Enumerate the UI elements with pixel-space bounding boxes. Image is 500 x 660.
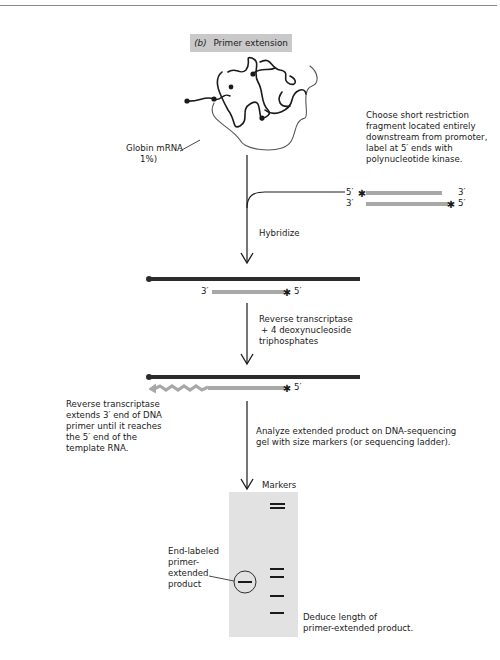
probe-instruction-4: label at 5′ ends with [366, 143, 453, 154]
hybrid-rna-primer: ✱ [146, 276, 360, 298]
step-hybridize-label: Hybridize [259, 228, 300, 239]
extended-primer-hybrid: ✱ [146, 374, 360, 394]
step2-label-2: + 4 deoxynucleoside [261, 325, 351, 336]
hybrid-primer-3prime: 3′ [201, 286, 208, 297]
mrna-label-percent: 1%) [140, 154, 157, 165]
product-label-1: End-labeled [168, 546, 219, 557]
probe-join-line [247, 192, 345, 208]
labeled-probe-duplex: ✱ ✱ [358, 188, 455, 210]
svg-text:✱: ✱ [283, 383, 291, 394]
mrna-tangle-illustration [187, 58, 317, 150]
probe-bottom-left-end: 3′ [346, 198, 353, 209]
step3-label-2: gel with size markers (or sequencing lad… [256, 437, 451, 448]
conclusion-1: Deduce length of [303, 612, 377, 623]
extension-note-1: Reverse transcriptase [66, 399, 160, 410]
conclusion-2: primer-extended product. [303, 623, 413, 634]
extension-note-5: template RNA. [66, 443, 128, 454]
product-label-2: primer- [168, 557, 199, 568]
extension-note-3: primer until it reaches [66, 421, 161, 432]
diagram-graphics: ✱ ✱ ✱ ✱ [0, 0, 500, 660]
marker-bands [270, 504, 285, 613]
product-label-4: product [168, 579, 201, 590]
probe-instruction-3: downstream from promoter, [366, 132, 487, 143]
probe-bottom-right-end: 5′ [458, 198, 465, 209]
extended-primer-5prime: 5′ [294, 382, 301, 393]
step3-label-1: Analyze extended product on DNA-sequenci… [256, 426, 456, 437]
svg-text:✱: ✱ [447, 199, 455, 210]
svg-text:✱: ✱ [283, 287, 291, 298]
product-band [209, 571, 256, 593]
probe-top-right-end: 3′ [458, 187, 465, 198]
hybrid-primer-5prime: 5′ [294, 286, 301, 297]
probe-instruction-2: fragment located entirely [366, 121, 476, 132]
probe-instruction-1: Choose short restriction [366, 110, 469, 121]
product-label-3: extended [168, 568, 209, 579]
svg-text:✱: ✱ [358, 188, 366, 199]
probe-top-left-end: 5′ [346, 187, 353, 198]
mrna-label: Globin mRNA [126, 143, 183, 154]
mrna-leader-line [180, 140, 200, 151]
gel-markers-label: Markers [262, 480, 296, 491]
probe-instruction-5: polynucleotide kinase. [366, 154, 463, 165]
extension-note-2: extends 3′ end of DNA [66, 410, 162, 421]
step2-label-1: Reverse transcriptase [259, 314, 353, 325]
step2-label-3: triphosphates [259, 336, 318, 347]
extension-note-4: the 5′ end of the [66, 432, 137, 443]
